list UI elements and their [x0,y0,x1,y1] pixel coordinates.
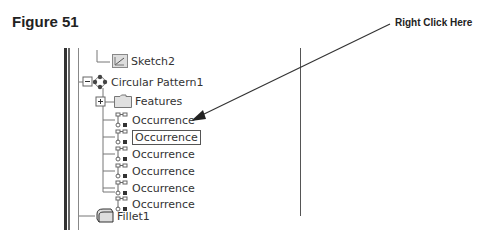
occurrence-icon [115,163,129,179]
tree-item-label: Occurrence [132,130,201,145]
tree-item-label: Occurrence [132,148,195,161]
tree-item-circular-pattern[interactable]: Circular Pattern1 [92,74,203,90]
folder-icon [114,94,132,108]
tree-connectors [0,0,481,230]
tree-item-occurrence[interactable]: Occurrence [115,112,195,128]
tree-item-occurrence-selected[interactable]: Occurrence [115,129,201,145]
tree-item-fillet[interactable]: Fillet1 [96,208,150,224]
fillet-icon [96,208,114,224]
tree-item-label: Occurrence [132,165,195,178]
occurrence-icon [115,146,129,162]
tree-item-label: Features [135,95,182,108]
tree-item-label: Occurrence [132,182,195,195]
tree-item-occurrence[interactable]: Occurrence [115,163,195,179]
sketch-icon [112,54,128,68]
collapse-toggle [83,77,92,86]
tree-item-occurrence[interactable]: Occurrence [115,146,195,162]
expand-toggle [96,97,105,106]
occurrence-icon [115,112,129,128]
pointer-arrow [191,24,390,121]
tree-item-label: Sketch2 [131,55,175,68]
tree-item-features[interactable]: Features [114,94,182,108]
occurrence-icon [115,180,129,196]
tree-item-label: Circular Pattern1 [111,76,203,89]
occurrence-icon [115,129,129,145]
tree-item-label: Occurrence [132,114,195,127]
tree-item-occurrence[interactable]: Occurrence [115,180,195,196]
tree-item-sketch[interactable]: Sketch2 [112,54,175,68]
tree-item-label: Fillet1 [117,210,150,223]
circular-pattern-icon [92,74,108,90]
